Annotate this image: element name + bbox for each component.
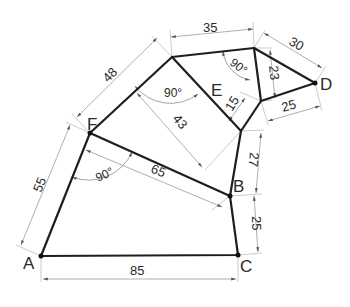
dim-label-CB: 25 (249, 216, 264, 230)
vertex-points (39, 81, 318, 259)
vertex-label-D: D (320, 75, 332, 94)
dim-label-FG: 48 (100, 64, 121, 85)
vertex-point-B (228, 194, 233, 199)
vertex-point-A (39, 254, 44, 259)
dim-label-ID: 25 (280, 96, 298, 114)
vertex-point-D (313, 81, 318, 86)
dim-label-EJ: 15 (222, 93, 242, 113)
vertex-label-E: E (211, 81, 222, 100)
edge-GH (172, 48, 254, 57)
dim-line-perp (137, 93, 202, 167)
dimension-labels: 85 25 27 55 65 48 43 35 30 23 25 15 (30, 20, 307, 278)
vertex-label-C: C (240, 257, 252, 276)
angle-label-H: 90° (227, 55, 250, 77)
edge-HD (254, 48, 315, 83)
edge-path-main (41, 133, 238, 256)
dim-label-AC: 85 (130, 263, 144, 278)
angle-label-F: 90° (93, 164, 116, 184)
dim-label-GH: 35 (203, 20, 217, 35)
angle-label-G: 90° (164, 86, 182, 100)
dim-label-AF: 55 (30, 175, 49, 194)
dim-label-HD: 30 (287, 34, 307, 54)
edge-JI (241, 101, 261, 131)
vertex-label-F: F (87, 115, 97, 134)
extension-lines (16, 22, 326, 282)
vertex-label-A: A (23, 254, 35, 273)
angle-arcs (72, 51, 250, 180)
dim-label-HI: 23 (266, 65, 282, 81)
edge-HI (254, 48, 261, 101)
vertex-label-B: B (233, 177, 244, 196)
dim-label-BJ: 27 (246, 152, 262, 168)
geometry-diagram: A B C D E F 85 25 27 55 65 48 43 35 30 2… (0, 0, 350, 307)
edge-FG (90, 57, 172, 133)
dim-label-perp: 43 (170, 111, 191, 132)
